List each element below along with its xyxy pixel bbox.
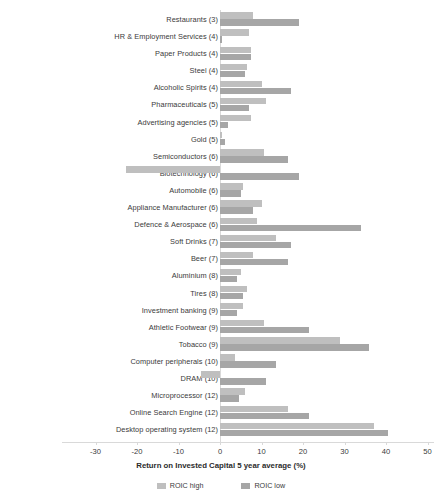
bar-row: Gold (5) [0,131,442,148]
x-tick-label: 10 [257,447,265,456]
category-label: Steel (4) [190,62,218,79]
legend-label: ROIC high [170,481,204,490]
category-label: Beer (7) [191,250,218,267]
bar-row: Advertising agencies (5) [0,114,442,131]
category-label: Appliance Manufacturer (6) [128,199,218,216]
x-tick [345,442,346,445]
bar-0 [220,47,251,53]
bar-rows-container: Restaurants (3)HR & Employment Services … [0,11,442,438]
category-label: Paper Products (4) [155,45,218,62]
bar-group [220,12,442,26]
bar-row: DRAM (10) [0,370,442,387]
roic-bar-chart: Restaurants (3)HR & Employment Services … [0,0,442,490]
x-tick [386,442,387,445]
bar-row: Tires (8) [0,285,442,302]
bar-group [220,149,442,163]
bar-0 [220,81,262,87]
bar-group [220,303,442,317]
bar-1 [220,344,369,350]
bar-group [220,29,442,43]
bar-1 [220,242,291,248]
bar-0 [220,218,257,224]
bar-1 [220,19,299,25]
bar-group [220,269,442,283]
category-label: Athletic Footwear (9) [149,319,218,336]
bar-0 [126,166,220,172]
bar-0 [220,286,247,292]
bar-0 [220,252,253,258]
bar-row: Microprocessor (12) [0,387,442,404]
bar-1 [220,413,309,419]
bar-group [220,47,442,61]
bar-group [220,81,442,95]
bar-row: Athletic Footwear (9) [0,319,442,336]
bar-0 [220,337,340,343]
bar-group [220,200,442,214]
bar-row: HR & Employment Services (4) [0,28,442,45]
bar-0 [220,29,249,35]
bar-1 [220,105,249,111]
x-tick [428,442,429,445]
bar-1 [220,173,299,179]
bar-1 [220,88,291,94]
bar-row: Investment banking (9) [0,302,442,319]
x-tick [262,442,263,445]
bar-group [220,286,442,300]
bar-0 [220,303,243,309]
bar-group [220,166,442,180]
category-label: HR & Employment Services (4) [114,28,218,45]
bar-0 [220,235,276,241]
bar-0 [220,200,262,206]
bar-row: Restaurants (3) [0,11,442,28]
bar-1 [220,327,309,333]
x-tick-label: 0 [218,447,222,456]
bar-1 [220,71,245,77]
bar-1 [220,36,222,42]
category-label: Pharmaceuticals (5) [151,96,218,113]
bar-row: Defence & Aerospace (6) [0,216,442,233]
bar-group [220,183,442,197]
bar-0 [220,388,245,394]
bar-group [220,423,442,437]
category-label: Automobile (6) [169,182,218,199]
x-axis-title: Return on Invested Capital 5 year averag… [0,461,442,470]
category-label: Desktop operating system (12) [116,421,218,438]
bar-0 [220,320,264,326]
bar-0 [220,115,251,121]
bar-1 [220,310,237,316]
legend-item: ROIC high [157,481,204,490]
bar-0 [220,269,241,275]
x-tick [220,442,221,445]
bar-row: Appliance Manufacturer (6) [0,199,442,216]
legend-item: ROIC low [241,481,285,490]
plot-area: Restaurants (3)HR & Employment Services … [0,0,442,442]
category-label: Gold (5) [191,131,218,148]
bar-0 [201,371,220,377]
x-tick [303,442,304,445]
bar-row: Desktop operating system (12) [0,421,442,438]
bar-row: Tobacco (9) [0,336,442,353]
bar-1 [220,207,253,213]
category-label: Restaurants (3) [166,11,218,28]
bar-group [220,115,442,129]
bar-1 [220,190,241,196]
category-label: Alcoholic Spirits (4) [154,79,218,96]
bar-row: Aluminium (8) [0,267,442,284]
x-tick-label: 40 [382,447,390,456]
chart-legend: ROIC highROIC low [0,481,442,490]
x-tick-label: 20 [299,447,307,456]
bar-0 [220,354,235,360]
x-tick-label: -10 [173,447,184,456]
bar-1 [220,276,237,282]
bar-0 [220,132,222,138]
legend-label: ROIC low [254,481,285,490]
x-tick-label: 50 [423,447,431,456]
bar-group [220,337,442,351]
bar-1 [220,395,239,401]
bar-row: Paper Products (4) [0,45,442,62]
bar-row: Steel (4) [0,62,442,79]
bar-row: Soft Drinks (7) [0,233,442,250]
category-label: Tobacco (9) [179,336,218,353]
category-label: Microprocessor (12) [151,387,218,404]
category-label: Advertising agencies (5) [138,114,218,131]
